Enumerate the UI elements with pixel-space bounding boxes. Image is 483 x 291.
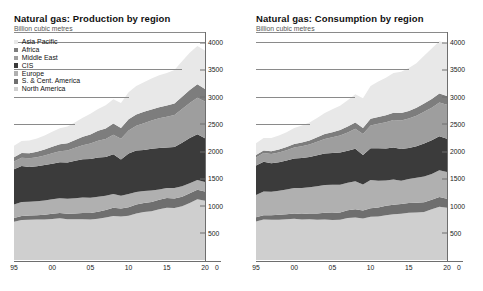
x-axis-zero-label: 0 (457, 264, 461, 271)
x-tick-label: 15 (163, 264, 171, 271)
legend-item-africa: Africa (14, 46, 80, 54)
x-tick-label: 00 (48, 264, 56, 271)
stacked-area-svg (256, 34, 447, 260)
x-axis-line (14, 261, 221, 262)
gridline (256, 69, 409, 70)
x-tick-label: 20 (201, 264, 209, 271)
y-tick-label: 500 (448, 229, 461, 236)
x-tick-label: 95 (10, 264, 18, 271)
legend-item-asia-pacific: Asia Pacific (14, 38, 80, 46)
legend-swatch-icon (14, 87, 18, 91)
legend-swatch-icon (14, 63, 18, 67)
chart-top-rule (256, 32, 447, 33)
x-tick-label: 05 (87, 264, 95, 271)
legend-swatch-icon (14, 71, 18, 75)
legend-swatch-icon (14, 56, 18, 60)
x-tick-label: 10 (125, 264, 133, 271)
chart-panel-production: Natural gas: Production by region Billio… (0, 0, 241, 291)
y-tick-label: 1000 (206, 202, 223, 209)
gridline (14, 124, 75, 125)
gridline (256, 42, 439, 43)
y-tick-label: 4000 (206, 39, 223, 46)
y-tick-label: 2500 (448, 120, 465, 127)
x-tick-label: 15 (405, 264, 413, 271)
chart-panel-consumption: Natural gas: Consumption by region Billi… (242, 0, 483, 291)
y-tick-label: 1000 (448, 202, 465, 209)
legend-item-north-america: North America (14, 85, 80, 93)
chart-subtitle: Billion cubic metres (14, 25, 73, 32)
legend-label: Europe (22, 70, 44, 78)
y-tick-label: 3000 (206, 93, 223, 100)
y-tick-label: 1500 (206, 175, 223, 182)
legend-item-middle-east: Middle East (14, 54, 80, 62)
y-tick-label: 1500 (448, 175, 465, 182)
gridline (256, 124, 310, 125)
x-tick-label: 95 (252, 264, 260, 271)
chart-top-rule (14, 32, 205, 33)
x-axis-zero-label: 0 (215, 264, 219, 271)
legend-swatch-icon (14, 40, 18, 44)
y-tick-label: 2500 (206, 120, 223, 127)
chart-legend: Asia Pacific Africa Middle East CIS Euro… (14, 38, 80, 93)
legend-label: Asia Pacific (22, 38, 58, 46)
legend-label: North America (22, 85, 66, 93)
gridline (14, 97, 129, 98)
y-tick-label: 4000 (448, 39, 465, 46)
x-tick-label: 00 (290, 264, 298, 271)
legend-label: CIS (22, 62, 34, 70)
legend-swatch-icon (14, 79, 18, 83)
x-axis-line (256, 261, 463, 262)
legend-item-s-and-cent-america: S. & Cent. America (14, 77, 80, 85)
chart-page: Natural gas: Production by region Billio… (0, 0, 483, 291)
y-tick-label: 3000 (448, 93, 465, 100)
y-tick-label: 500 (206, 229, 219, 236)
legend-label: Middle East (22, 54, 58, 62)
chart-subtitle: Billion cubic metres (256, 25, 315, 32)
legend-item-europe: Europe (14, 70, 80, 78)
x-tick-label: 10 (367, 264, 375, 271)
page-title: Natural gas: Consumption by region (256, 13, 424, 24)
plot-area-consumption (256, 34, 447, 260)
y-tick-label: 2000 (448, 148, 465, 155)
legend-label: Africa (22, 46, 40, 54)
y-tick-label: 2000 (206, 148, 223, 155)
legend-swatch-icon (14, 48, 18, 52)
legend-item-cis: CIS (14, 62, 80, 70)
y-tick-label: 3500 (206, 66, 223, 73)
legend-label: S. & Cent. America (22, 77, 80, 85)
page-title: Natural gas: Production by region (14, 13, 170, 24)
x-tick-label: 05 (329, 264, 337, 271)
x-tick-label: 20 (443, 264, 451, 271)
gridline (256, 97, 355, 98)
y-tick-label: 3500 (448, 66, 465, 73)
